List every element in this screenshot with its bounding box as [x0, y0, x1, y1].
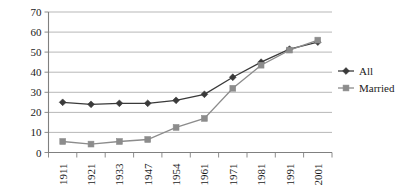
legend-marker-square-icon: [343, 85, 349, 91]
x-tick-label: 1921: [85, 164, 97, 186]
series-line: [63, 42, 318, 104]
y-tick-label: 0: [36, 147, 42, 159]
y-tick-label: 40: [31, 66, 43, 78]
x-tick-label: 2001: [312, 164, 324, 186]
y-tick-label: 70: [31, 6, 43, 18]
series-all: [59, 39, 321, 108]
data-point-marker: [88, 101, 95, 108]
data-point-marker: [117, 139, 123, 145]
x-tick-label: 1947: [142, 163, 154, 186]
data-point-marker: [116, 100, 123, 107]
x-tick-label: 1954: [170, 163, 182, 186]
y-tick-label: 50: [31, 46, 43, 58]
x-tick-label: 1991: [284, 164, 296, 186]
data-point-marker: [173, 97, 180, 104]
y-tick-label: 10: [31, 126, 43, 138]
legend-marker-diamond-icon: [343, 68, 350, 75]
data-point-marker: [202, 116, 208, 122]
data-point-marker: [229, 74, 236, 81]
x-axis-tick-marks: [49, 153, 333, 158]
x-tick-label: 1981: [255, 164, 267, 186]
x-tick-label: 1971: [227, 164, 239, 186]
data-point-marker: [230, 85, 236, 91]
y-tick-label: 30: [31, 86, 43, 98]
chart-legend: AllMarried: [338, 65, 395, 94]
chart-axes: [48, 12, 332, 153]
data-point-marker: [315, 37, 321, 43]
data-point-marker: [144, 100, 151, 107]
data-point-marker: [88, 141, 94, 147]
legend-item-all[interactable]: All: [338, 65, 373, 77]
x-tick-label: 1933: [113, 163, 125, 186]
data-point-marker: [201, 91, 208, 98]
y-axis-tick-labels: 010203040506070: [31, 6, 49, 159]
data-point-marker: [258, 62, 264, 68]
data-point-marker: [60, 139, 66, 145]
legend-item-married[interactable]: Married: [338, 82, 395, 94]
legend-label: Married: [359, 82, 395, 94]
x-tick-label: 1961: [198, 164, 210, 186]
y-tick-label: 60: [31, 26, 43, 38]
x-tick-label: 1911: [57, 164, 69, 186]
data-point-marker: [287, 47, 293, 53]
y-tick-label: 20: [31, 106, 43, 118]
legend-label: All: [359, 65, 373, 77]
gridlines: [49, 12, 333, 153]
data-point-marker: [145, 137, 151, 143]
data-point-marker: [59, 99, 66, 106]
x-axis-tick-labels: 1911192119331947195419611971198119912001: [57, 163, 324, 186]
data-point-marker: [173, 125, 179, 131]
line-chart: 010203040506070 191119211933194719541961…: [0, 0, 407, 192]
chart-canvas: 010203040506070 191119211933194719541961…: [0, 0, 407, 192]
